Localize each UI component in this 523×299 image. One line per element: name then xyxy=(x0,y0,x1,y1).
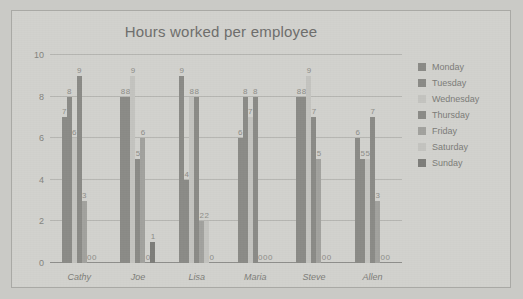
legend-swatch-icon xyxy=(418,95,426,103)
bar-group: 7869300Cathy xyxy=(62,55,97,263)
legend-swatch-icon xyxy=(418,159,426,167)
legend-item[interactable]: Saturday xyxy=(418,139,518,154)
y-axis-tick-label: 8 xyxy=(39,92,44,102)
bar-group: 8897500Steve xyxy=(296,55,331,263)
bar-value-label: 0 xyxy=(327,253,331,262)
bar-slot[interactable]: 0 xyxy=(326,55,331,263)
legend-swatch-icon xyxy=(418,63,426,71)
legend-item[interactable]: Tuesday xyxy=(418,75,518,90)
legend-item[interactable]: Monday xyxy=(418,59,518,74)
y-axis-tick-label: 6 xyxy=(39,133,44,143)
x-axis-category-label: Cathy xyxy=(68,272,92,282)
bar-group: 8895601Joe xyxy=(120,55,155,263)
bar-slot[interactable]: 0 xyxy=(385,55,390,263)
legend-label: Wednesday xyxy=(432,94,479,104)
x-axis-category-label: Maria xyxy=(244,272,267,282)
bar-slot[interactable]: 0 xyxy=(268,55,273,263)
x-axis-category-label: Lisa xyxy=(188,272,205,282)
legend-label: Tuesday xyxy=(432,78,466,88)
legend-item[interactable]: Wednesday xyxy=(418,91,518,106)
legend-label: Sunday xyxy=(432,158,463,168)
chart-title: Hours worked per employee xyxy=(12,23,510,40)
bar-slot[interactable]: 0 xyxy=(92,55,97,263)
legend-item[interactable]: Friday xyxy=(418,123,518,138)
legend-item[interactable]: Sunday xyxy=(418,155,518,170)
y-axis-tick-label: 0 xyxy=(39,258,44,268)
x-axis-category-label: Steve xyxy=(302,272,325,282)
screenshot-page: Hours worked per employee 0246810 786930… xyxy=(0,0,523,299)
bar-group: 6878000Maria xyxy=(238,55,273,263)
legend-swatch-icon xyxy=(418,111,426,119)
bar-value-label: 0 xyxy=(92,253,96,262)
bar-value-label: 1 xyxy=(151,232,155,241)
chart-card: Hours worked per employee 0246810 786930… xyxy=(11,10,511,288)
y-axis-tick-label: 4 xyxy=(39,175,44,185)
legend-item[interactable]: Thursday xyxy=(418,107,518,122)
legend-swatch-icon xyxy=(418,79,426,87)
bar-value-label: 0 xyxy=(209,253,213,262)
bar-group: 9488220Lisa xyxy=(179,55,214,263)
plot-area: 0246810 7869300Cathy8895601Joe9488220Lis… xyxy=(50,55,402,263)
chart-legend: MondayTuesdayWednesdayThursdayFridaySatu… xyxy=(418,59,518,171)
bar-groups: 7869300Cathy8895601Joe9488220Lisa6878000… xyxy=(50,55,402,263)
bar-slot[interactable]: 1 xyxy=(150,55,155,263)
bar-value-label: 0 xyxy=(268,253,272,262)
y-axis-tick-label: 2 xyxy=(39,216,44,226)
legend-label: Monday xyxy=(432,62,464,72)
bar[interactable] xyxy=(150,242,155,263)
x-axis-category-label: Joe xyxy=(131,272,146,282)
bar-value-label: 0 xyxy=(385,253,389,262)
bar-group: 6557300Allen xyxy=(355,55,390,263)
legend-swatch-icon xyxy=(418,127,426,135)
legend-label: Friday xyxy=(432,126,457,136)
legend-label: Saturday xyxy=(432,142,468,152)
x-axis-category-label: Allen xyxy=(363,272,383,282)
y-axis-tick-label: 10 xyxy=(34,50,44,60)
legend-label: Thursday xyxy=(432,110,470,120)
legend-swatch-icon xyxy=(418,143,426,151)
bar-slot[interactable]: 0 xyxy=(209,55,214,263)
